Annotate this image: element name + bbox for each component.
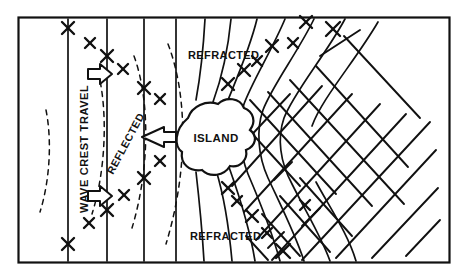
refracted-label-bottom: REFRACTED xyxy=(190,230,261,242)
island-label: ISLAND xyxy=(193,132,238,144)
refracted-label-top: REFRACTED xyxy=(188,49,259,61)
diagram-canvas: ISLAND REFRACTED REFRACTED WAVE CREST TR… xyxy=(0,0,466,280)
wave-diagram-svg: ISLAND REFRACTED REFRACTED WAVE CREST TR… xyxy=(0,0,466,280)
